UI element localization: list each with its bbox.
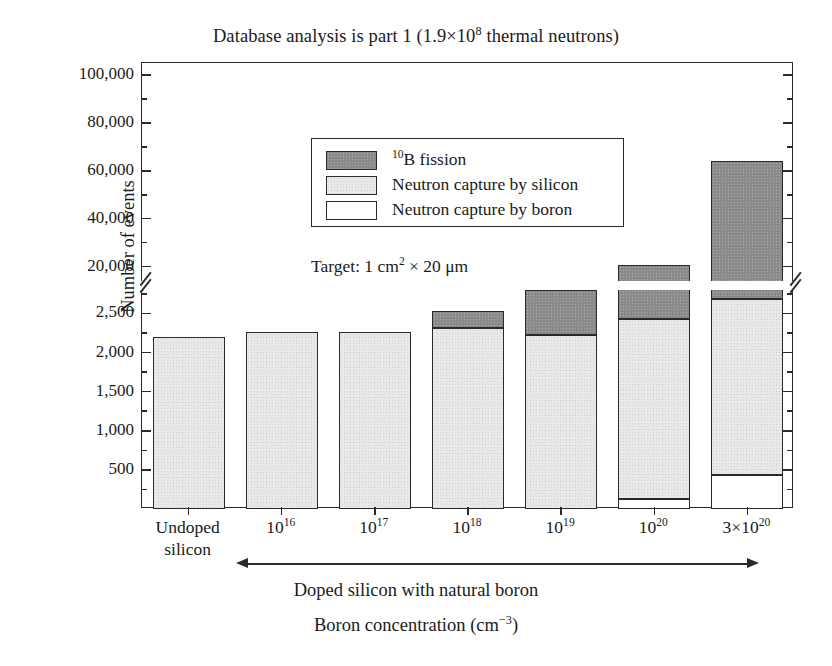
y-axis-tick-minor	[787, 371, 792, 373]
x-tick-label-exponent: 20	[656, 516, 668, 528]
legend-item: Neutron capture by boron	[326, 199, 572, 221]
y-axis-tick-major	[142, 352, 151, 354]
y-axis-tick-major	[142, 122, 151, 124]
bar-segment-silicon	[432, 328, 504, 509]
y-axis-tick-minor	[142, 410, 147, 412]
x-tick-label-base: 10	[359, 517, 377, 537]
y-axis-tick-minor	[787, 293, 792, 295]
y-axis-tick-major	[783, 266, 792, 268]
x-axis-tick	[374, 507, 376, 515]
y-axis-tick-major	[142, 218, 151, 220]
bar-segment-fission	[525, 290, 597, 335]
y-axis-tick-minor	[787, 74, 792, 76]
y-axis-tick-major	[783, 122, 792, 124]
y-tick-label: 2,500	[96, 303, 134, 320]
x-tick-label-exponent: 20	[759, 516, 771, 528]
y-tick-label: 60,000	[87, 161, 134, 178]
y-axis-tick-major	[783, 170, 792, 172]
bar-segment-fission	[711, 161, 783, 299]
y-axis-tick-minor	[142, 146, 147, 148]
annotation-pre: Target: 1 cm	[311, 256, 399, 276]
y-axis-tick-minor	[142, 98, 147, 100]
bar-segment-silicon	[153, 337, 225, 509]
arrow-shaft	[244, 563, 751, 565]
x-axis-title-exponent: −3	[499, 613, 512, 627]
arrow-head-right	[747, 558, 759, 568]
y-tick-label: 1,000	[96, 421, 134, 438]
x-tick-label-exponent: 19	[563, 516, 575, 528]
x-tick-label-exponent: 17	[377, 516, 389, 528]
y-axis-tick-minor	[787, 489, 792, 491]
y-axis-tick-minor	[142, 194, 147, 196]
y-axis-tick-minor	[142, 489, 147, 491]
y-axis-tick-minor	[142, 74, 147, 76]
chart-figure: Database analysis is part 1 (1.9×108 the…	[0, 0, 832, 666]
x-tick-label-line2: silicon	[164, 539, 211, 559]
y-axis-tick-major	[142, 430, 151, 432]
legend-label: Neutron capture by boron	[392, 201, 572, 219]
x-tick-label-exponent: 16	[284, 516, 296, 528]
y-axis-tick-minor	[142, 332, 147, 334]
bar-segment-silicon	[246, 332, 318, 509]
y-axis-tick-major	[142, 170, 151, 172]
y-axis-tick-minor	[787, 332, 792, 334]
legend-swatch-boron	[326, 201, 377, 220]
x-axis-tick	[654, 507, 656, 515]
y-axis-tick-major	[783, 430, 792, 432]
doped-range-caption: Doped silicon with natural boron	[0, 580, 832, 601]
legend-item: 10B fission	[326, 149, 466, 171]
legend-swatch-silicon	[326, 176, 377, 195]
chart-title-pre: Database analysis is part 1 (1.9×10	[213, 26, 476, 46]
y-axis-tick-major	[783, 218, 792, 220]
x-tick-label-base: 10	[452, 517, 470, 537]
chart-title-post: thermal neutrons)	[482, 26, 619, 46]
legend-label-text: B fission	[404, 149, 467, 169]
y-axis-tick-major	[142, 266, 151, 268]
target-annotation: Target: 1 cm2 × 20 μm	[311, 256, 468, 277]
x-tick-label: 3×1020	[676, 516, 816, 538]
x-tick-label-base: 10	[639, 517, 657, 537]
y-axis-tick-minor	[787, 450, 792, 452]
x-axis-tick	[188, 507, 190, 515]
y-axis-tick-major	[783, 391, 792, 393]
x-axis-tick	[560, 507, 562, 515]
y-axis-tick-minor	[142, 293, 147, 295]
y-axis-tick-major	[783, 469, 792, 471]
x-axis-tick	[281, 507, 283, 515]
chart-legend: 10B fissionNeutron capture by siliconNeu…	[311, 138, 624, 227]
legend-swatch-fission	[326, 151, 377, 170]
y-axis-tick-minor	[787, 194, 792, 196]
legend-item: Neutron capture by silicon	[326, 174, 578, 196]
bar-segment-fission	[432, 311, 504, 328]
y-tick-label: 20,000	[87, 257, 134, 274]
legend-label: 10B fission	[392, 151, 466, 169]
x-axis-tick	[467, 507, 469, 515]
y-axis-tick-minor	[787, 146, 792, 148]
legend-label: Neutron capture by silicon	[392, 176, 578, 194]
y-axis-tick-minor	[142, 371, 147, 373]
x-tick-label-base: 10	[266, 517, 284, 537]
y-axis-tick-major	[142, 469, 151, 471]
x-axis-title-pre: Boron concentration (cm	[314, 615, 499, 635]
legend-label-superscript: 10	[392, 148, 404, 160]
y-axis-tick-major	[142, 313, 151, 315]
bar-segment-silicon	[711, 299, 783, 475]
y-axis-tick-minor	[787, 410, 792, 412]
y-axis-tick-major	[783, 313, 792, 315]
x-axis-title-post: )	[512, 615, 518, 635]
x-axis-title: Boron concentration (cm−3)	[0, 615, 832, 636]
y-axis-tick-labels: 20,00040,00060,00080,000100,0005001,0001…	[35, 62, 134, 508]
x-tick-label-base: 3×10	[723, 517, 759, 537]
y-axis-tick-minor	[787, 242, 792, 244]
bar-segment-fission	[618, 265, 690, 319]
y-axis-tick-major	[783, 352, 792, 354]
bar-segment-silicon	[339, 332, 411, 509]
y-tick-label: 500	[109, 460, 135, 477]
y-tick-label: 1,500	[96, 382, 134, 399]
plot-area: 10B fissionNeutron capture by siliconNeu…	[141, 62, 793, 508]
chart-title: Database analysis is part 1 (1.9×108 the…	[0, 26, 832, 47]
x-tick-label-base: 10	[546, 517, 564, 537]
x-tick-label-exponent: 18	[470, 516, 482, 528]
y-axis-tick-minor	[142, 242, 147, 244]
y-tick-label: 80,000	[87, 113, 134, 130]
